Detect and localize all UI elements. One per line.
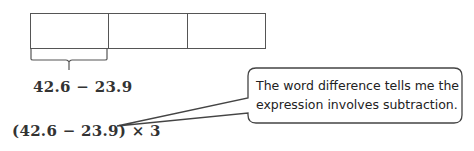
callout-line-2: expression involves subtraction. [256,95,461,114]
expression: (42.6 − 23.9) × 3 [12,122,161,140]
callout-text: The word difference tells me the express… [256,76,461,114]
callout-line-1: The word difference tells me the [256,76,461,95]
brace-icon [31,49,107,70]
bracket-label: 42.6 − 23.9 [33,78,132,96]
